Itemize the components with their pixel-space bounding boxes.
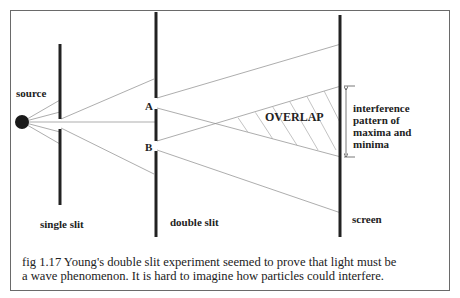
source-label: source [16, 88, 46, 99]
screen-label: screen [352, 214, 382, 225]
interference-label-line3: maxima and [353, 126, 411, 138]
slit-b-label: B [145, 142, 152, 153]
rays-single-to-double [61, 79, 154, 174]
rays-double-to-screen [157, 44, 341, 213]
source-dot [15, 115, 29, 129]
interference-label-line1: interference [353, 102, 411, 114]
interference-label-line4: minima [353, 138, 411, 150]
interference-label-line2: pattern of [353, 114, 411, 126]
double-slit-label: double slit [170, 217, 219, 228]
interference-label: interference pattern of maxima and minim… [353, 102, 411, 150]
figure-caption: fig 1.17 Young's double slit experiment … [22, 255, 442, 283]
slit-a-label: A [145, 101, 153, 112]
single-slit-label: single slit [40, 219, 84, 230]
caption-line1: fig 1.17 Young's double slit experiment … [22, 255, 442, 269]
caption-line2: a wave phenomenon. It is hard to imagine… [22, 269, 442, 283]
overlap-label: OVERLAP [265, 112, 324, 123]
